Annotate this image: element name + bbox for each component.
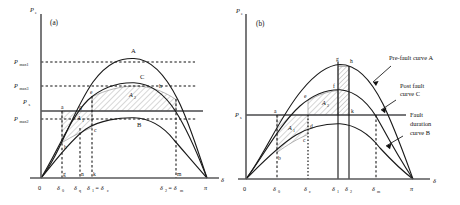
area-label-a2-main: A — [321, 99, 326, 106]
y-tick-pmax2: P max2 — [13, 115, 29, 124]
point-label-g: g — [63, 171, 66, 177]
x-tick-deltaq-main: δ — [74, 184, 77, 191]
point-label-a: a — [61, 104, 64, 110]
annotation-faultduration-line1: Fault — [410, 111, 423, 118]
y-tick-ps: P s — [22, 98, 31, 107]
annotation-faultduration-line3: curve B — [410, 129, 430, 136]
area-label-a1-sub: 1 — [82, 118, 84, 123]
annotation-prefault-curve-a: Pre-fault curve A — [389, 54, 433, 61]
point-label-e: e — [304, 93, 307, 99]
y-tick-ps: P s — [234, 111, 242, 120]
curve-label-c: C — [140, 73, 145, 80]
x-tick-pi: π — [204, 184, 208, 191]
x-tick-delta0-sub: 0 — [62, 188, 64, 193]
x-tick-delta2: δ 2 — [345, 185, 352, 194]
annotation-postfault-curve-c: Post fault curve C — [400, 82, 425, 97]
point-label-b: b — [278, 155, 281, 161]
figure-root: (a) P e δ P max1 P max3 P s P max2 0 δ 0 — [0, 0, 460, 205]
area-label-a2-sub: 2 — [327, 103, 329, 108]
y-tick-pmax3: P max3 — [13, 82, 29, 91]
point-label-f: f — [333, 83, 335, 89]
x-tick-delta1-sub: 1 — [337, 189, 339, 194]
point-label-c: c — [94, 127, 97, 133]
y-axis-label: P e — [235, 7, 243, 16]
x-tick-delta2-eq: = δ — [168, 184, 177, 191]
x-axis-label: δ — [433, 177, 437, 184]
y-tick-ps-sub: s — [29, 102, 31, 107]
point-label-q: q — [79, 104, 82, 110]
y-tick-pmax2-sub: max2 — [20, 119, 29, 124]
point-label-n: n — [81, 171, 84, 177]
panel-a-plot: (a) P e δ P max1 P max3 P s P max2 0 δ 0 — [0, 0, 230, 205]
annotation-postfault-line1: Post fault — [400, 82, 425, 89]
curve-label-b: B — [137, 121, 142, 128]
point-label-h: h — [159, 83, 162, 89]
x-tick-delta0-main: δ — [273, 185, 276, 192]
panel-a: (a) P e δ P max1 P max3 P s P max2 0 δ 0 — [0, 0, 230, 205]
panel-b: (b) P e δ P s 0 δ 0 δ c δ 1 δ 2 — [230, 0, 460, 205]
point-label-m: m — [177, 171, 182, 177]
y-tick-pmax3-main: P — [13, 82, 18, 89]
x-tick-delta2-sub2: m — [180, 188, 184, 193]
x-tick-delta1-main: δ — [87, 184, 90, 191]
y-tick-pmax1-main: P — [13, 58, 18, 65]
curve-label-a: A — [131, 47, 136, 54]
x-tick-delta1-sub: 1 — [92, 188, 94, 193]
y-tick-pmax3-sub: max3 — [20, 86, 29, 91]
area-label-a1-sub: 1 — [293, 128, 295, 133]
x-tick-delta1-main: δ — [332, 185, 335, 192]
x-tick-deltac-main: δ — [304, 185, 307, 192]
point-label-b: b — [64, 144, 67, 150]
x-tick-delta2: δ 2 = δ m — [160, 184, 184, 193]
x-tick-delta2-main: δ — [345, 185, 348, 192]
point-label-g: g — [336, 56, 339, 62]
x-tick-delta2-sub: 2 — [165, 188, 167, 193]
point-label-a: a — [274, 108, 277, 114]
annotation-faultduration-line2: duration — [410, 120, 432, 127]
annotation-faultduration-curve-b: Fault duration curve B — [410, 111, 432, 136]
x-tick-deltac-sub: c — [309, 189, 311, 194]
area-label-a1-main: A — [287, 124, 292, 131]
panel-label-a: (a) — [50, 19, 59, 27]
x-tick-pi: π — [410, 185, 414, 192]
y-tick-pmax1-sub: max1 — [20, 62, 29, 67]
x-tick-delta1: δ 1 = δ c — [87, 184, 109, 193]
x-tick-delta0-sub: 0 — [278, 189, 280, 194]
x-tick-deltam-main: δ — [372, 185, 375, 192]
x-tick-0: 0 — [38, 184, 41, 191]
y-axis-label-sub: e — [241, 11, 243, 16]
point-label-c: c — [303, 137, 306, 143]
annotation-postfault-line2: curve C — [400, 90, 420, 97]
x-tick-delta0-main: δ — [57, 184, 60, 191]
point-label-d: d — [310, 123, 313, 129]
x-tick-deltam-sub: m — [377, 189, 381, 194]
annotation-leader-prefault — [373, 66, 391, 86]
curve-a-prefault — [246, 65, 413, 180]
x-tick-delta2-main: δ — [160, 184, 163, 191]
y-axis-label: P e — [29, 6, 37, 15]
point-label-h: h — [350, 58, 353, 64]
x-tick-delta2-sub: 2 — [350, 189, 352, 194]
area-label-a2-sub: 2 — [134, 95, 136, 100]
y-tick-pmax2-main: P — [13, 115, 18, 122]
x-tick-delta0: δ 0 — [57, 184, 64, 193]
x-tick-delta1-eq: = δ — [95, 184, 104, 191]
x-tick-deltaq: δ q — [74, 184, 81, 193]
panel-b-plot: (b) P e δ P s 0 δ 0 δ c δ 1 δ 2 — [230, 0, 460, 205]
area-label-a2-main: A — [128, 91, 133, 98]
area-label-a1-main: A — [76, 114, 81, 121]
point-label-k: k — [351, 108, 354, 114]
y-axis-label-main: P — [29, 6, 34, 13]
x-axis-label: δ — [221, 176, 225, 183]
y-tick-ps-main: P — [22, 98, 27, 105]
y-tick-ps-sub: s — [240, 115, 242, 120]
x-tick-deltam: δ m — [372, 185, 381, 194]
point-label-e: e — [90, 89, 93, 95]
x-tick-delta1: δ 1 — [332, 185, 339, 194]
y-axis-label-sub: e — [35, 10, 37, 15]
x-tick-0: 0 — [243, 185, 246, 192]
point-label-k: k — [93, 171, 96, 177]
y-tick-ps-main: P — [234, 111, 239, 118]
annotation-leader-postfault — [381, 100, 396, 113]
x-tick-deltaq-sub: q — [79, 188, 81, 193]
